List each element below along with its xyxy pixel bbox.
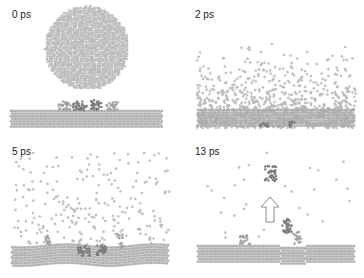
- substrate-atom: [140, 247, 142, 249]
- substrate-atom: [319, 245, 321, 247]
- molecule-atom: [288, 124, 290, 126]
- molecule-atom: [291, 231, 293, 233]
- sputtered-atom: [259, 90, 261, 92]
- substrate-atom: [93, 258, 95, 260]
- projectile-atom: [53, 41, 55, 43]
- substrate-atom: [210, 119, 212, 121]
- projectile-atom: [68, 64, 70, 66]
- sputtered-atom: [238, 68, 240, 70]
- substrate-atom: [156, 243, 158, 245]
- substrate-atom: [311, 124, 313, 126]
- substrate-atom: [337, 124, 339, 126]
- molecule-atom: [103, 252, 105, 254]
- projectile-atom: [119, 34, 121, 36]
- substrate-atom: [79, 118, 81, 120]
- molecule-atom: [286, 218, 288, 220]
- projectile-atom: [106, 21, 108, 23]
- substrate-atom: [164, 254, 166, 256]
- sputtered-atom: [222, 89, 224, 91]
- substrate-atom: [319, 255, 321, 257]
- substrate-atom: [79, 123, 81, 125]
- substrate-atom: [198, 111, 200, 113]
- substrate-atom: [244, 114, 246, 116]
- substrate-atom: [223, 250, 225, 252]
- projectile-atom: [85, 57, 87, 59]
- substrate-atom: [331, 117, 333, 119]
- substrate-atom: [78, 244, 80, 246]
- molecule-atom: [245, 235, 247, 237]
- sputtered-atom: [310, 75, 312, 77]
- sputtered-atom: [301, 95, 303, 97]
- substrate-atom: [289, 117, 291, 119]
- substrate-atom: [20, 110, 22, 112]
- sputtered-atom: [331, 92, 333, 94]
- substrate-atom: [24, 123, 26, 125]
- substrate-atom: [115, 251, 117, 253]
- substrate-atom: [344, 247, 346, 249]
- substrate-atom: [311, 250, 313, 252]
- projectile-atom: [120, 31, 122, 33]
- substrate-atom: [336, 117, 338, 119]
- projectile-atom: [118, 36, 120, 38]
- substrate-atom: [298, 247, 300, 249]
- substrate-atom: [140, 262, 142, 264]
- substrate-atom: [253, 247, 255, 249]
- projectile-atom: [107, 43, 109, 45]
- substrate-atom: [107, 262, 109, 264]
- substrate-atom: [149, 249, 151, 251]
- projectile-atom: [99, 58, 101, 60]
- projectile-atom: [123, 46, 125, 48]
- projectile-atom: [82, 9, 84, 11]
- substrate-atom: [261, 247, 263, 249]
- substrate-atom: [294, 249, 296, 251]
- substrate-atom: [319, 114, 321, 116]
- substrate-atom: [324, 109, 326, 111]
- substrate-atom: [154, 259, 156, 261]
- substrate-atom: [237, 117, 239, 119]
- substrate-atom: [231, 109, 233, 111]
- substrate-atom: [197, 260, 199, 262]
- substrate-atom: [63, 249, 65, 251]
- substrate-atom: [153, 246, 155, 248]
- substrate-atom: [162, 249, 164, 251]
- substrate-atom: [101, 264, 103, 266]
- projectile-atom: [104, 50, 106, 52]
- substrate-atom: [245, 247, 247, 249]
- substrate-atom: [87, 118, 89, 120]
- substrate-atom: [125, 261, 127, 263]
- projectile-atom: [104, 32, 106, 34]
- substrate-atom: [244, 250, 246, 252]
- substrate-atom: [73, 244, 75, 246]
- substrate-atom: [218, 245, 220, 247]
- substrate-atom: [123, 256, 125, 258]
- projectile-atom: [106, 72, 108, 74]
- sputtered-atom: [243, 179, 245, 181]
- substrate-atom: [62, 246, 64, 248]
- projectile-atom: [82, 48, 84, 50]
- substrate-atom: [263, 247, 265, 249]
- substrate-atom: [132, 110, 134, 112]
- sputtered-atoms: [207, 152, 351, 239]
- substrate-atom: [162, 259, 164, 261]
- substrate-atom: [124, 259, 126, 261]
- projectile-atom: [111, 14, 113, 16]
- substrate-atom: [298, 114, 300, 116]
- projectile-atom: [87, 55, 89, 57]
- substrate-atom: [322, 119, 324, 121]
- substrate-atom: [253, 258, 255, 260]
- substrate-atom: [11, 246, 13, 248]
- projectile-atom: [68, 36, 70, 38]
- projectile-atom: [46, 46, 48, 48]
- sputtered-atom: [258, 103, 260, 105]
- sputtered-atom: [326, 90, 328, 92]
- substrate-atom: [293, 114, 295, 116]
- substrate-atom: [300, 117, 302, 119]
- sputtered-atom: [121, 229, 123, 231]
- substrate-atom: [37, 251, 39, 253]
- substrate-atom: [203, 117, 205, 119]
- substrate-atom: [41, 263, 43, 265]
- substrate-atom: [225, 114, 227, 116]
- substrate-atom: [311, 260, 313, 262]
- projectile-atom: [99, 67, 101, 69]
- projectile-atom: [92, 87, 94, 89]
